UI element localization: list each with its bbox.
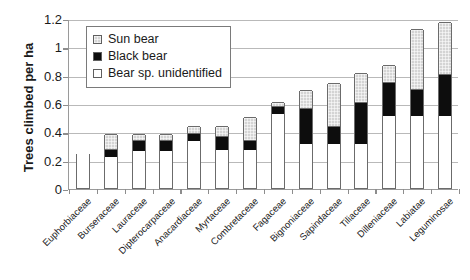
y-tick-label: 0.6	[16, 98, 62, 111]
bar-segment-sun	[188, 126, 200, 135]
bar-segment-sun	[272, 102, 284, 108]
bar-segment-sun	[216, 126, 228, 137]
legend-entry[interactable]: Black bear	[93, 48, 222, 65]
legend-swatch-black	[93, 52, 102, 61]
bar-segment-sun	[355, 73, 367, 103]
legend-swatch-unid	[93, 69, 102, 78]
bar-segment-sun	[439, 22, 451, 74]
y-tick-label: 0.2	[16, 155, 62, 168]
bar-segment-black	[105, 150, 117, 157]
bar-segment-black	[244, 141, 256, 150]
bar-segment-sun	[160, 134, 172, 141]
x-tick-mark	[69, 189, 70, 194]
bar-segment-unid	[77, 153, 89, 188]
bar-segment-sun	[244, 117, 256, 141]
y-tick-mark	[63, 77, 68, 78]
bar-segment-sun	[383, 65, 395, 83]
y-tick-label: 1.2	[16, 13, 62, 26]
bar-segment-black	[188, 134, 200, 141]
bar-segment-sun	[300, 90, 312, 108]
bar-segment-sun	[133, 134, 145, 141]
bar-segment-sun	[328, 83, 340, 127]
y-tick-mark	[63, 162, 68, 163]
legend-label: Sun bear	[108, 33, 159, 46]
bar-segment-black	[272, 107, 284, 114]
bar-segment-black	[355, 103, 367, 144]
bar[interactable]	[76, 154, 90, 189]
legend-entry[interactable]: Sun bear	[93, 31, 222, 48]
bar-segment-black	[133, 141, 145, 151]
bar-segment-black	[160, 141, 172, 151]
legend-label: Bear sp. unidentified	[108, 67, 222, 80]
y-tick-label: 1	[16, 41, 62, 54]
y-tick-label: 0	[16, 183, 62, 196]
bar-segment-black	[411, 90, 423, 116]
y-tick-mark	[63, 105, 68, 106]
bar-segment-black	[300, 109, 312, 144]
bar-segment-black	[439, 75, 451, 116]
y-tick-mark	[63, 48, 68, 49]
x-axis-labels: EuphorbiaceaeBurseraceaeLauraceaeDiptero…	[68, 196, 458, 280]
legend-swatch-sun	[93, 35, 102, 44]
y-tick-label: 0.8	[16, 70, 62, 83]
bar-chart: Trees climbed per ha EuphorbiaceaeBurser…	[0, 0, 470, 280]
chart-legend: Sun bearBlack bearBear sp. unidentified	[86, 26, 231, 88]
y-tick-mark	[63, 20, 68, 21]
bar[interactable]	[438, 23, 452, 189]
bar-segment-sun	[105, 134, 117, 150]
bar-segment-black	[383, 83, 395, 116]
y-tick-mark	[63, 133, 68, 134]
bar-segment-sun	[411, 29, 423, 90]
legend-label: Black bear	[108, 50, 167, 63]
legend-entry[interactable]: Bear sp. unidentified	[93, 65, 222, 82]
y-tick-mark	[63, 190, 68, 191]
y-tick-label: 0.4	[16, 126, 62, 139]
bar-segment-black	[328, 127, 340, 144]
bar-slot	[431, 20, 459, 189]
